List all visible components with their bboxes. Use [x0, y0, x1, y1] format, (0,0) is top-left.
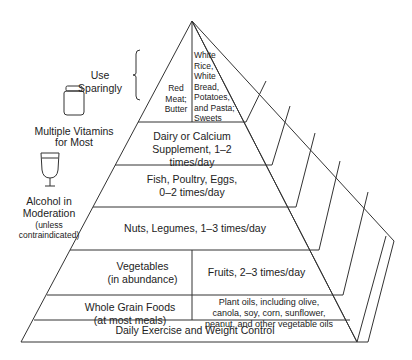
vitamins-label-2: for Most — [28, 136, 120, 149]
tier-dairy: Dairy or Calcium Supplement, 1–2 times/d… — [132, 130, 252, 169]
tier-fish: Fish, Poultry, Eggs, 0–2 times/day — [132, 173, 252, 199]
alcohol-label-3: (unless — [10, 220, 88, 231]
wine-glass-icon — [41, 153, 59, 186]
tier-base: Daily Exercise and Weight Control — [60, 324, 330, 337]
tier-fruits: Fruits, 2–3 times/day — [194, 266, 319, 279]
tier-nuts: Nuts, Legumes, 1–3 times/day — [110, 222, 280, 235]
alcohol-label-4: contraindicated) — [8, 230, 90, 241]
bracket-icon — [133, 50, 140, 100]
tier-vegetables: Vegetables (in abundance) — [95, 260, 190, 286]
tier-red-meat: Red Meat; Butter — [162, 83, 190, 115]
tier-white-rice: White Rice, White Bread, Potatoes, and P… — [194, 50, 244, 124]
alcohol-label-2: Moderation — [10, 207, 88, 220]
use-sparingly-label: Use Sparingly — [68, 69, 132, 95]
